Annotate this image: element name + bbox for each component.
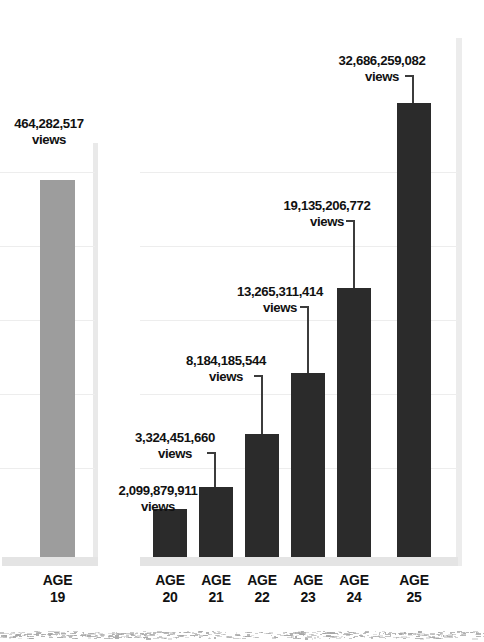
bar-age-19[interactable] <box>40 180 75 557</box>
bar-age-23[interactable] <box>291 373 325 557</box>
value-number-age-24: 19,135,206,772 <box>268 198 386 214</box>
value-label-age-21: 3,324,451,660 views <box>125 430 225 461</box>
leader-line-age-23-v <box>307 306 309 373</box>
value-unit-age-20: views <box>108 499 208 515</box>
value-label-age-25: 32,686,259,082 views <box>322 53 442 84</box>
value-label-age-23: 13,265,311,414 views <box>222 284 338 315</box>
axis-label-age-19: AGE 19 <box>10 572 105 606</box>
value-number-age-23: 13,265,311,414 <box>222 284 338 300</box>
axis-label-age-20: AGE 20 <box>147 572 193 606</box>
value-number-age-21: 3,324,451,660 <box>125 430 225 446</box>
leader-line-age-25-v <box>412 75 414 103</box>
value-unit-age-22: views <box>170 369 282 385</box>
value-number-age-22: 8,184,185,544 <box>170 353 282 369</box>
value-number-age-25: 32,686,259,082 <box>322 53 442 69</box>
value-unit-age-19: views <box>0 132 98 148</box>
leader-line-age-21-v <box>214 452 216 487</box>
axis-label-age-22: AGE 22 <box>239 572 285 606</box>
bar-age-22[interactable] <box>245 434 279 557</box>
value-label-age-19: 464,282,517 views <box>0 116 98 147</box>
value-label-age-22: 8,184,185,544 views <box>170 353 282 384</box>
bar-age-20[interactable] <box>153 509 187 557</box>
value-unit-age-25: views <box>322 69 442 85</box>
value-label-age-20: 2,099,879,911 views <box>108 483 208 514</box>
axis-label-age-25: AGE 25 <box>391 572 437 606</box>
scan-artifact-band <box>0 628 484 642</box>
axis-label-age-21: AGE 21 <box>193 572 239 606</box>
bar-chart: 464,282,517 views AGE 19 2,099,879,911 v… <box>0 0 484 642</box>
axis-label-age-24: AGE 24 <box>331 572 377 606</box>
axis-label-age-23: AGE 23 <box>285 572 331 606</box>
value-unit-age-24: views <box>268 214 386 230</box>
value-number-age-20: 2,099,879,911 <box>108 483 208 499</box>
value-label-age-24: 19,135,206,772 views <box>268 198 386 229</box>
bar-age-25[interactable] <box>397 103 431 557</box>
leader-line-age-24-v <box>353 220 355 288</box>
gridline-left-1 <box>0 172 95 173</box>
baseline-left <box>2 557 98 566</box>
baseline-right <box>140 557 458 566</box>
leader-line-age-22-v <box>261 375 263 434</box>
value-unit-age-23: views <box>222 300 338 316</box>
value-number-age-19: 464,282,517 <box>0 116 98 132</box>
bar-age-24[interactable] <box>337 288 371 557</box>
